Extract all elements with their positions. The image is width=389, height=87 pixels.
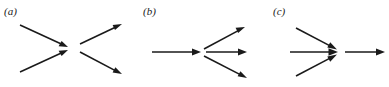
arrow-in-upper-left [20,25,68,47]
arrow-out-right [345,48,385,55]
arrow-out-lower-right [80,52,122,74]
arrow-out-lower-right [204,56,247,78]
panel-a: (a) [0,0,130,87]
panel-b: (b) [130,0,260,87]
arrow-in-upper-left [296,28,337,50]
panel-c: (c) [260,0,389,87]
arrow-out-right [206,48,247,55]
arrow-in-left [290,48,338,55]
figure-root: (a) (b) [0,0,389,87]
arrow-out-upper-right [204,27,245,49]
panel-b-arrows [130,0,260,87]
arrow-in-lower-left [20,50,68,72]
arrow-in-lower-left [296,55,337,77]
arrow-in-left [152,48,201,55]
arrow-out-upper-right [80,24,122,44]
panel-c-arrows [260,0,389,87]
panel-a-arrows [0,0,130,87]
